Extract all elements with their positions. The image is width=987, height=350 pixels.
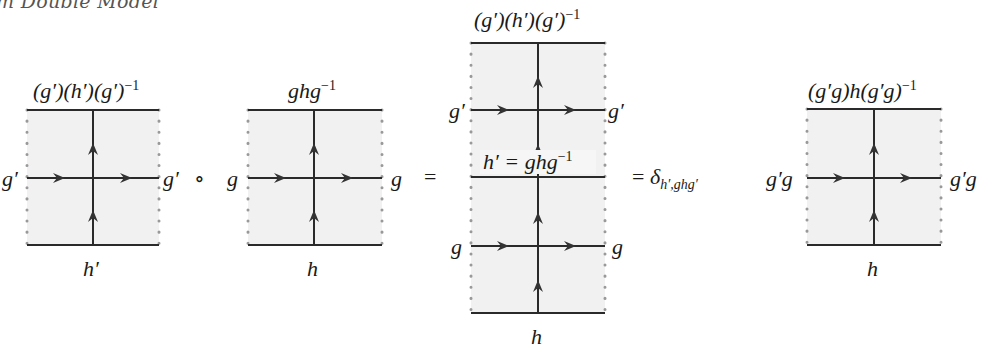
box3-right-label: g′g	[950, 168, 977, 190]
plaquette-box-2	[248, 110, 382, 245]
box1-right-label: g′	[163, 168, 179, 190]
stacked-upper-left-label: g′	[449, 100, 465, 122]
box2-left-label: g	[227, 168, 238, 190]
stacked-plaquette	[471, 43, 605, 313]
equals-operator-1: =	[424, 166, 436, 188]
box1-bottom-label: h′	[83, 258, 99, 280]
stacked-top-label: (g′)(h′)(g′)−1	[474, 8, 580, 31]
box3-bottom-label: h	[867, 258, 878, 280]
box2-top-label: ghg−1	[288, 79, 336, 102]
stacked-middle-label: h′ = ghg−1	[483, 150, 573, 173]
stacked-bottom-label: h	[531, 326, 542, 348]
kronecker-delta: = δh′,ghg′	[632, 166, 698, 192]
box3-top-label: (g′g)h(g′g)−1	[808, 79, 917, 102]
diagram-canvas	[0, 0, 987, 350]
box2-bottom-label: h	[307, 258, 318, 280]
compose-operator: ∘	[194, 168, 205, 190]
box3-left-label: g′g	[766, 168, 793, 190]
box1-top-label: (g′)(h′)(g′)−1	[33, 79, 139, 102]
box2-right-label: g	[391, 168, 402, 190]
stacked-lower-right-label: g	[612, 236, 623, 258]
box1-left-label: g′	[2, 168, 18, 190]
stacked-lower-left-label: g	[451, 236, 462, 258]
plaquette-box-3	[807, 109, 941, 245]
plaquette-box-1	[27, 110, 159, 245]
stacked-upper-right-label: g′	[608, 100, 624, 122]
